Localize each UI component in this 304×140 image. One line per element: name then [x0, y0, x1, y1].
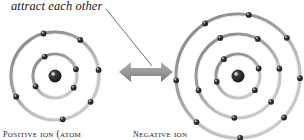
positive-ion-label: Positive ion (atom [3, 127, 81, 139]
negative-ion-diagram [169, 7, 304, 140]
ion-attraction-figure: attract each other Positive ion (atom Ne… [0, 0, 304, 140]
positive-ion-diagram [4, 25, 106, 127]
negative-ion-label: Negative ion [133, 127, 187, 139]
attraction-arrow [118, 58, 174, 90]
annotation-text: attract each other [11, 0, 102, 14]
